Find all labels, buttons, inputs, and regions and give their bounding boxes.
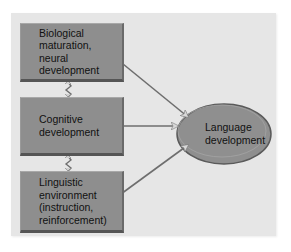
box-label-line: neural xyxy=(39,52,122,65)
ellipse-label-line: development xyxy=(205,134,265,147)
cognitive-development-box: Cognitive development xyxy=(20,97,124,156)
biological-maturation-box: Biological maturation, neural developmen… xyxy=(20,23,124,82)
box-label-line: environment xyxy=(39,189,122,202)
box-label-line: Linguistic xyxy=(39,176,122,189)
box-label-line: maturation, xyxy=(39,39,122,52)
linguistic-environment-box: Linguistic environment (instruction, rei… xyxy=(20,171,124,233)
ellipse-label-line: Language xyxy=(205,121,265,134)
box-label-line: development xyxy=(39,126,122,139)
box-label-line: reinforcement) xyxy=(39,214,122,227)
box-label-line: Biological xyxy=(39,27,122,40)
box-label-line: (instruction, xyxy=(39,201,122,214)
box-label-line: Cognitive xyxy=(39,113,122,126)
box-label-line: development xyxy=(39,64,122,77)
language-development-label: Language development xyxy=(205,121,265,146)
